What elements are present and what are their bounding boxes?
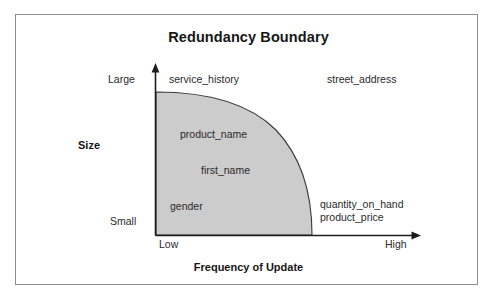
annotation-first-name: first_name: [201, 164, 250, 176]
x-axis-arrow: [412, 232, 422, 240]
annotation-gender: gender: [170, 200, 203, 212]
annotation-quantity-on-hand: quantity_on_hand: [320, 198, 404, 210]
y-axis-title: Size: [78, 139, 100, 151]
annotation-service-history: service_history: [169, 73, 239, 85]
plot-area: [0, 0, 497, 299]
figure-canvas: Redundancy Boundary Size Frequency of Up…: [0, 0, 497, 299]
annotation-product-name: product_name: [180, 128, 247, 140]
y-axis-tick-small: Small: [110, 215, 136, 227]
y-axis-arrow: [152, 63, 160, 73]
x-axis-title: Frequency of Update: [0, 261, 497, 273]
annotation-product-price: product_price: [320, 211, 384, 223]
x-axis-tick-high: High: [385, 238, 407, 250]
y-axis-tick-large: Large: [108, 73, 135, 85]
annotation-street-address: street_address: [327, 73, 396, 85]
x-axis-tick-low: Low: [159, 238, 178, 250]
